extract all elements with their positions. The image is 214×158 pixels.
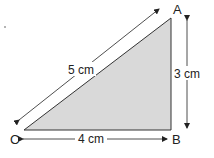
vertex-b-label: B bbox=[172, 132, 181, 147]
vertex-a-label: A bbox=[173, 2, 182, 17]
horizontal-label: 4 cm bbox=[78, 132, 104, 146]
vertical-label: 3 cm bbox=[174, 67, 200, 81]
stray-dot bbox=[4, 26, 6, 28]
hypotenuse-label: 5 cm bbox=[68, 63, 94, 77]
right-triangle-diagram: 5 cm 3 cm 4 cm A B C bbox=[0, 0, 214, 158]
vertex-c-label: C bbox=[10, 132, 19, 147]
triangle bbox=[24, 18, 171, 130]
